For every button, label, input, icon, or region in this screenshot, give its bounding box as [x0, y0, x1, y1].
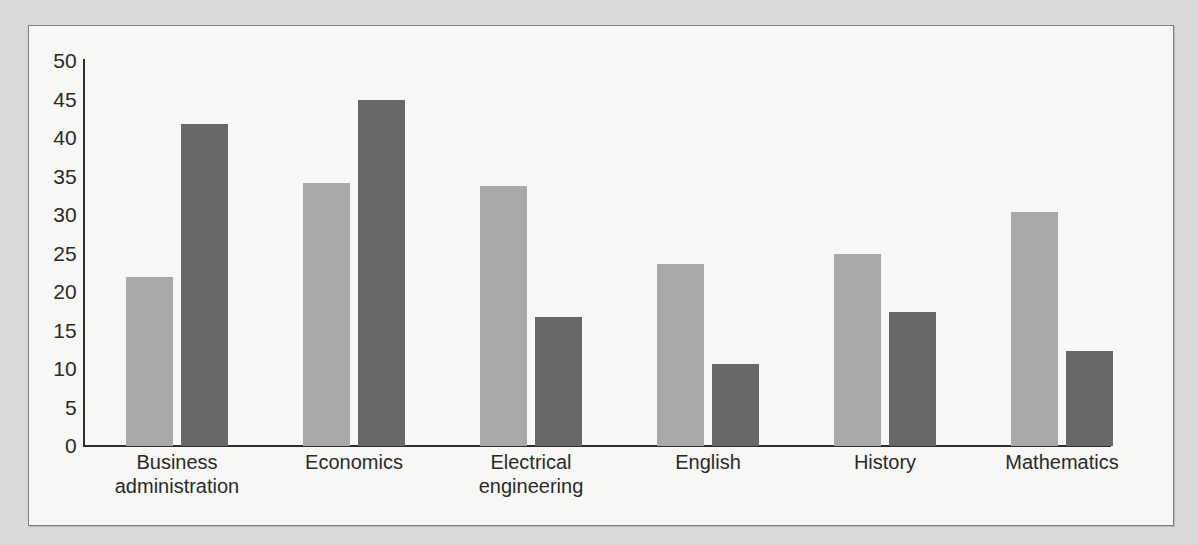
bar — [712, 364, 759, 446]
bar — [1066, 351, 1113, 446]
bar — [535, 317, 582, 446]
bar — [657, 264, 704, 446]
screenshot-canvas: 50454035302520151050 Businessadministrat… — [0, 0, 1198, 545]
bar — [834, 254, 881, 446]
bar — [181, 124, 228, 446]
x-axis-category-label-line1: History — [854, 451, 916, 473]
bar — [358, 100, 405, 446]
x-axis-category-label-line1: Mathematics — [1005, 451, 1118, 473]
x-axis-category-labels: BusinessadministrationEconomicsElectrica… — [29, 450, 1175, 522]
bar — [303, 183, 350, 446]
x-axis-category-label-line1: Economics — [305, 451, 403, 473]
x-axis-category-label-line1: Electrical — [490, 451, 571, 473]
x-axis-category-label-line1: Business — [136, 451, 217, 473]
bar — [889, 312, 936, 446]
bar — [1011, 212, 1058, 446]
bar-chart-plot-area: 50454035302520151050 Businessadministrat… — [29, 26, 1175, 527]
x-axis-category-label-line1: English — [675, 451, 741, 473]
bar — [480, 186, 527, 446]
figure-frame: 50454035302520151050 Businessadministrat… — [28, 25, 1174, 526]
x-axis-category-label-line2: engineering — [416, 474, 646, 498]
x-axis-category-label: Mathematics — [947, 450, 1177, 474]
x-axis-category-label-line2: administration — [62, 474, 292, 498]
bar — [126, 277, 173, 446]
